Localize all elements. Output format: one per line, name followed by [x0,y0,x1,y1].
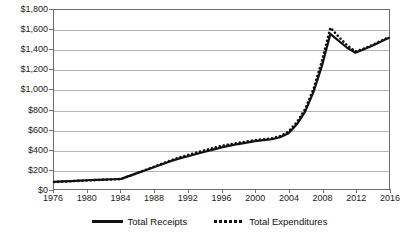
y-tick-label: $800 [0,105,48,114]
series-line-total-receipts [54,34,389,182]
x-tick-mark [188,189,189,193]
x-tick-label: 2016 [380,193,400,203]
y-tick-label: $1,400 [0,45,48,54]
x-tick-mark [87,189,88,193]
x-tick-label: 1976 [43,193,63,203]
plot-area [53,9,390,190]
x-tick-mark [222,189,223,193]
x-tick-label: 2008 [313,193,333,203]
x-tick-mark [323,189,324,193]
dotted-line-swatch-icon [213,220,244,223]
x-tick-label: 1996 [211,193,231,203]
x-tick-label: 2004 [279,193,299,203]
y-tick-label: $400 [0,145,48,154]
y-tick-label: $1,200 [0,65,48,74]
legend-label-total-receipts: Total Receipts [128,216,188,227]
x-tick-label: 1992 [178,193,198,203]
chart-legend: Total Receipts Total Expenditures [0,213,419,229]
y-tick-label: $600 [0,125,48,134]
y-tick-label: $1,000 [0,85,48,94]
x-tick-mark [255,189,256,193]
legend-item-total-receipts: Total Receipts [92,216,188,227]
x-tick-label: 1984 [110,193,130,203]
legend-label-total-expenditures: Total Expenditures [249,216,327,227]
line-chart: $0$200$400$600$800$1,000$1,200$1,400$1,6… [0,0,419,242]
series-line-total-expenditures [54,28,389,182]
x-tick-mark [53,189,54,193]
legend-item-total-expenditures: Total Expenditures [213,216,327,227]
y-tick-label: $0 [0,186,48,195]
x-tick-mark [120,189,121,193]
x-tick-label: 1988 [144,193,164,203]
x-tick-mark [390,189,391,193]
x-tick-mark [356,189,357,193]
series-layer [54,10,389,189]
y-axis: $0$200$400$600$800$1,000$1,200$1,400$1,6… [0,9,48,190]
x-tick-label: 2000 [245,193,265,203]
x-tick-mark [154,189,155,193]
y-tick-label: $1,600 [0,25,48,34]
y-tick-label: $200 [0,165,48,174]
y-tick-label: $1,800 [0,5,48,14]
solid-line-swatch-icon [92,220,123,223]
x-tick-label: 2012 [346,193,366,203]
x-tick-mark [289,189,290,193]
x-axis: 1976198019841988199219962000200420082012… [53,193,390,207]
x-tick-label: 1980 [77,193,97,203]
